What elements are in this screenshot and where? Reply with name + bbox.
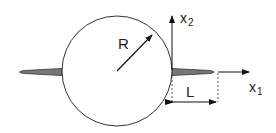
x1-axis-label: x1 (249, 80, 263, 94)
x1-main: x (249, 79, 256, 95)
left-crack (20, 69, 63, 76)
right-crack (172, 69, 214, 76)
x1-sub: 1 (257, 86, 263, 97)
x2-sub: 2 (188, 17, 194, 28)
radius-label: R (118, 36, 129, 51)
x2-axis-label: x2 (180, 11, 194, 25)
x2-main: x (180, 10, 187, 26)
crack-length-label: L (186, 84, 194, 99)
crack-hole-diagram: R L x2 x1 (0, 0, 276, 133)
diagram-canvas (0, 0, 276, 133)
